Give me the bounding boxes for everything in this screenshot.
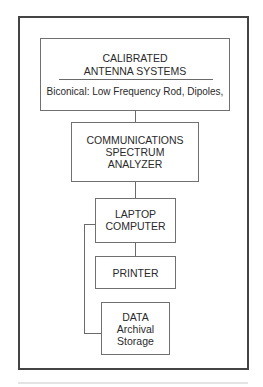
connector-laptop-storage-vertical: [84, 224, 85, 334]
antenna-divider: [59, 79, 213, 80]
laptop-computer-box: LAPTOP COMPUTER: [95, 198, 176, 243]
analyzer-line1: COMMUNICATIONS: [72, 134, 198, 146]
laptop-line1: LAPTOP: [96, 208, 175, 220]
storage-line3: Storage: [102, 335, 169, 347]
storage-line1: DATA: [102, 311, 169, 323]
spectrum-analyzer-box: COMMUNICATIONS SPECTRUM ANALYZER: [71, 122, 199, 182]
storage-line2: Archival: [102, 323, 169, 335]
clipped-caption: [18, 382, 248, 384]
antenna-title-line1: CALIBRATED: [41, 52, 229, 64]
laptop-line2: COMPUTER: [96, 220, 175, 232]
connector-analyzer-laptop: [135, 182, 136, 198]
antenna-title-line2: ANTENNA SYSTEMS: [41, 65, 229, 77]
connector-laptop-storage-top: [84, 224, 95, 225]
printer-box: PRINTER: [95, 256, 176, 289]
printer-label: PRINTER: [96, 267, 175, 279]
analyzer-line3: ANALYZER: [72, 158, 198, 170]
connector-laptop-storage-bottom: [84, 333, 101, 334]
antenna-detail: Biconical: Low Frequency Rod, Dipoles,: [41, 86, 229, 98]
analyzer-line2: SPECTRUM: [72, 146, 198, 158]
connector-antenna-analyzer: [135, 111, 136, 122]
antenna-systems-box: CALIBRATED ANTENNA SYSTEMS Biconical: Lo…: [40, 38, 230, 111]
data-archival-storage-box: DATA Archival Storage: [101, 302, 170, 355]
connector-laptop-printer: [135, 243, 136, 256]
